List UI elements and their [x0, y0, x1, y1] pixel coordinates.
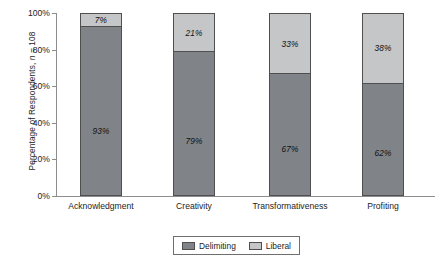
bar-group-acknowledgment[interactable]: 7% 93% [80, 13, 122, 196]
bar-label-liberal: 21% [174, 29, 214, 37]
bar-label-liberal: 38% [363, 44, 403, 52]
legend-item-liberal[interactable]: Liberal [249, 241, 291, 251]
y-tick-label-80: 80% [16, 45, 50, 55]
stacked-bar-chart: Percentage of Respondents, n = 108 100% … [0, 0, 440, 263]
plot-area: 7% 93% 21% 79% 33% [57, 13, 435, 196]
bar-segment-delimiting[interactable]: 93% [80, 26, 122, 196]
bar-segment-liberal[interactable]: 38% [362, 13, 404, 83]
legend-label: Delimiting [199, 241, 236, 251]
bar-segment-delimiting[interactable]: 67% [269, 73, 311, 196]
bar-label-delimiting: 93% [81, 127, 121, 135]
bar-group-transformativeness[interactable]: 33% 67% [269, 13, 311, 196]
legend-item-delimiting[interactable]: Delimiting [182, 241, 236, 251]
y-axis-tick-labels: 100% 80% 60% 40% 20% 0% [12, 0, 50, 263]
bar-segment-liberal[interactable]: 21% [173, 13, 215, 51]
legend-label: Liberal [266, 241, 291, 251]
bar-segment-liberal[interactable]: 7% [80, 13, 122, 26]
bar-label-liberal: 7% [81, 16, 121, 24]
y-tick-label-20: 20% [16, 154, 50, 164]
legend-swatch-icon [249, 242, 262, 250]
y-tick-label-100: 100% [16, 8, 50, 18]
bar-stack: 21% 79% [173, 13, 215, 196]
x-axis-line [52, 196, 435, 197]
y-tick-label-40: 40% [16, 118, 50, 128]
bar-stack: 38% 62% [362, 13, 404, 196]
x-tick-label-profiting: Profiting [308, 201, 440, 211]
bar-group-profiting[interactable]: 38% 62% [362, 13, 404, 196]
bar-stack: 33% 67% [269, 13, 311, 196]
bar-segment-delimiting[interactable]: 79% [173, 51, 215, 196]
y-tick-label-0: 0% [16, 191, 50, 201]
bar-stack: 7% 93% [80, 13, 122, 196]
bar-segment-delimiting[interactable]: 62% [362, 83, 404, 196]
y-tick-label-60: 60% [16, 81, 50, 91]
x-axis-category-labels: Acknowledgment Creativity Transformative… [57, 201, 435, 217]
bar-label-liberal: 33% [270, 40, 310, 48]
bar-group-creativity[interactable]: 21% 79% [173, 13, 215, 196]
bar-label-delimiting: 79% [174, 137, 214, 145]
bar-label-delimiting: 62% [363, 148, 403, 156]
legend-swatch-icon [182, 242, 195, 250]
bar-label-delimiting: 67% [270, 145, 310, 153]
chart-legend: Delimiting Liberal [173, 236, 300, 255]
bar-segment-liberal[interactable]: 33% [269, 13, 311, 73]
